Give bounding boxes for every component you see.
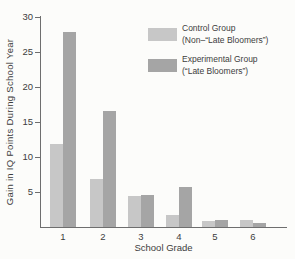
bar-control-grade-6 (240, 220, 253, 227)
x-tick-label-grade-3: 3 (131, 231, 151, 242)
bar-control-grade-3 (128, 196, 141, 227)
legend-item-control: Control Group(Non–“Late Bloomers”) (148, 22, 268, 46)
legend-swatch-control (148, 28, 177, 41)
legend-item-experimental: Experimental Group(“Late Bloomers”) (148, 53, 268, 77)
x-tick-label-grade-1: 1 (53, 231, 73, 242)
bar-experimental-grade-3 (141, 195, 154, 227)
bar-control-grade-4 (166, 215, 179, 227)
bar-experimental-grade-1 (63, 32, 76, 227)
x-tick-label-grade-4: 4 (169, 231, 189, 242)
x-axis-line (40, 227, 287, 228)
x-tick-label-grade-5: 5 (205, 231, 225, 242)
x-axis-title: School Grade (40, 242, 287, 253)
legend: Control Group(Non–“Late Bloomers”)Experi… (148, 22, 268, 84)
bar-experimental-grade-4 (179, 187, 192, 227)
x-tick-label-grade-6: 6 (243, 231, 263, 242)
y-axis-line (40, 16, 41, 228)
legend-label: Control Group(Non–“Late Bloomers”) (182, 22, 268, 46)
y-axis-title: Gain in IQ Points During School Year (4, 39, 15, 206)
bar-experimental-grade-2 (103, 111, 116, 227)
legend-label: Experimental Group(“Late Bloomers”) (182, 53, 258, 77)
legend-swatch-experimental (148, 59, 177, 72)
y-tick-label: 30 (11, 12, 33, 22)
x-tick-label-grade-2: 2 (93, 231, 113, 242)
bar-control-grade-1 (50, 144, 63, 227)
bar-control-grade-2 (90, 179, 103, 227)
bar-experimental-grade-5 (215, 220, 228, 227)
iq-gain-bar-chart: 51015202530123456 Gain in IQ Points Duri… (0, 0, 295, 259)
